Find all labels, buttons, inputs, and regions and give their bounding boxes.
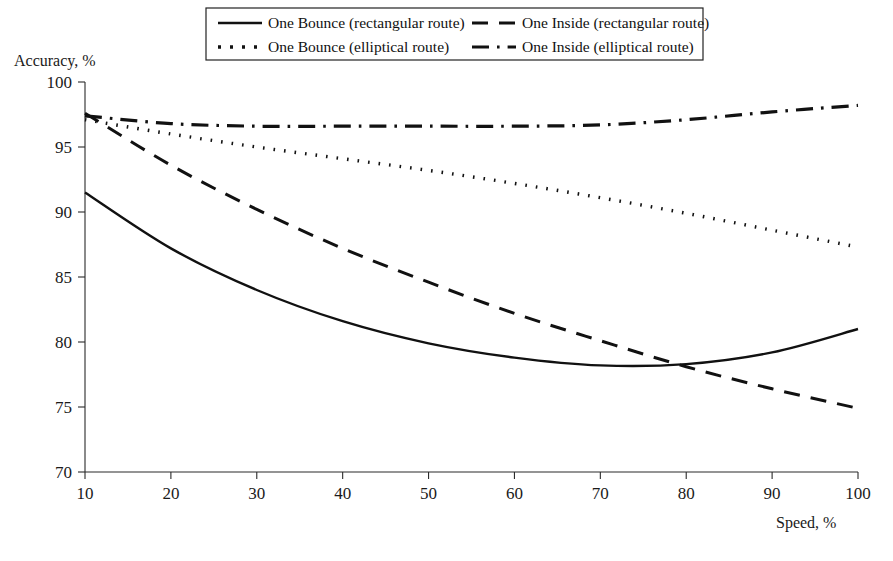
- x-tick-label-40: 40: [334, 484, 351, 503]
- chart-container: One Bounce (rectangular route) One Insid…: [0, 0, 893, 561]
- series-line-3: [85, 105, 858, 126]
- x-tick-label-10: 10: [77, 484, 94, 503]
- y-tick-label-75: 75: [55, 398, 72, 417]
- x-tick-label-30: 30: [248, 484, 265, 503]
- y-tick-label-85: 85: [55, 268, 72, 287]
- series-line-0: [85, 193, 858, 367]
- series-line-2: [85, 120, 858, 247]
- legend-label-2: One Bounce (elliptical route): [268, 38, 449, 56]
- legend-label-3: One Inside (elliptical route): [522, 38, 694, 56]
- y-tick-label-80: 80: [55, 333, 72, 352]
- legend-label-1: One Inside (rectangular route): [522, 14, 709, 32]
- x-tick-label-70: 70: [592, 484, 609, 503]
- x-tick-label-100: 100: [845, 484, 871, 503]
- chart-series-layer: [85, 105, 858, 408]
- y-tick-label-90: 90: [55, 203, 72, 222]
- x-tick-label-60: 60: [506, 484, 523, 503]
- y-tick-label-100: 100: [47, 73, 73, 92]
- series-line-1: [85, 113, 858, 408]
- x-axis-ticks: 102030405060708090100: [77, 472, 871, 503]
- y-axis-title: Accuracy, %: [14, 52, 96, 70]
- legend-label-0: One Bounce (rectangular route): [268, 14, 465, 32]
- chart-legend: One Bounce (rectangular route) One Insid…: [206, 8, 709, 60]
- y-axis-ticks: 707580859095100: [47, 73, 86, 482]
- line-chart: One Bounce (rectangular route) One Insid…: [0, 0, 893, 561]
- y-tick-label-95: 95: [55, 138, 72, 157]
- x-tick-label-90: 90: [764, 484, 781, 503]
- x-tick-label-50: 50: [420, 484, 437, 503]
- x-tick-label-80: 80: [678, 484, 695, 503]
- y-tick-label-70: 70: [55, 463, 72, 482]
- x-tick-label-20: 20: [162, 484, 179, 503]
- x-axis-title: Speed, %: [776, 514, 836, 532]
